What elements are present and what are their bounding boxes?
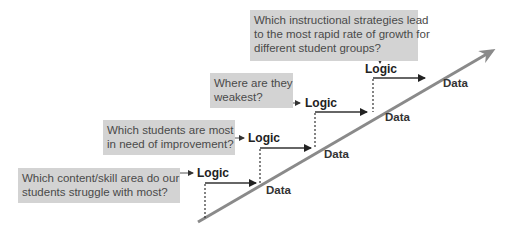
- question-line: in need of improvement?: [107, 137, 231, 151]
- question-line: weakest?: [214, 90, 289, 104]
- data-label-step-4: Data: [443, 77, 468, 89]
- question-line: to the most rapid rate of growth for: [254, 27, 414, 41]
- question-line: Which students are most: [107, 123, 231, 137]
- data-label-step-1: Data: [266, 184, 291, 196]
- question-line: Which content/skill area do our: [22, 171, 176, 185]
- logic-label-step-1: Logic: [197, 166, 229, 180]
- question-box-step-2: Which students are most in need of impro…: [103, 120, 235, 155]
- question-box-step-4: Which instructional strategies lead to t…: [250, 10, 418, 61]
- question-box-step-1: Which content/skill area do our students…: [18, 168, 180, 203]
- data-label-step-3: Data: [385, 111, 410, 123]
- question-line: Which instructional strategies lead: [254, 13, 414, 27]
- question-line: students struggle with most?: [22, 185, 176, 199]
- logic-label-step-4: Logic: [365, 62, 397, 76]
- question-line: different student groups?: [254, 41, 414, 55]
- question-line: Where are they: [214, 76, 289, 90]
- logic-label-step-2: Logic: [248, 131, 280, 145]
- logic-label-step-3: Logic: [305, 96, 337, 110]
- data-label-step-2: Data: [324, 148, 349, 160]
- question-box-step-3: Where are they weakest?: [210, 73, 293, 108]
